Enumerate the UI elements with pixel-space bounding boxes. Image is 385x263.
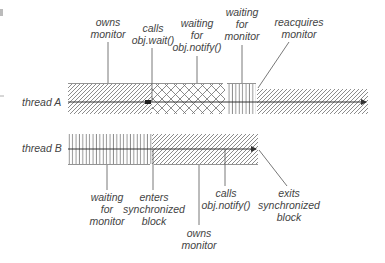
svg-text:synchronized: synchronized xyxy=(258,199,321,211)
svg-text:monitor: monitor xyxy=(89,215,125,227)
svg-text:obj.notify(): obj.notify() xyxy=(201,199,250,211)
annotation-waiting-monitor-b: waiting for monitor xyxy=(89,165,125,227)
svg-text:monitor: monitor xyxy=(90,28,126,40)
segment-owns-monitor xyxy=(68,84,152,114)
svg-text:exits: exits xyxy=(278,187,300,199)
svg-text:for: for xyxy=(236,18,249,30)
svg-text:waiting: waiting xyxy=(181,17,214,29)
svg-text:owns: owns xyxy=(96,16,121,28)
annotation-reacquires: reacquires monitor xyxy=(258,16,324,88)
segment-waiting-monitor xyxy=(227,84,256,114)
svg-text:calls: calls xyxy=(215,187,237,199)
svg-text:calls: calls xyxy=(142,22,164,34)
svg-text:obj.wait(): obj.wait() xyxy=(132,34,175,46)
svg-text:reacquires: reacquires xyxy=(274,16,324,28)
thread-b-label: thread B xyxy=(22,142,62,154)
thread-a-timeline: thread A xyxy=(22,84,368,115)
edge-artifact xyxy=(0,9,3,16)
svg-text:monitor: monitor xyxy=(281,28,317,40)
svg-text:enters: enters xyxy=(139,191,169,203)
svg-text:monitor: monitor xyxy=(224,30,260,42)
svg-text:waiting: waiting xyxy=(91,191,124,203)
wait-call-marker xyxy=(145,100,151,104)
svg-text:block: block xyxy=(277,211,302,223)
thread-a-label: thread A xyxy=(22,96,61,108)
svg-text:synchronized: synchronized xyxy=(123,203,186,215)
svg-text:waiting: waiting xyxy=(226,6,259,18)
annotation-exits-block: exits synchronized block xyxy=(258,150,321,223)
thread-b-timeline: thread B xyxy=(22,134,258,165)
svg-text:block: block xyxy=(142,215,167,227)
svg-text:for: for xyxy=(191,29,204,41)
annotation-owns-monitor: owns monitor xyxy=(90,16,126,83)
segment-waiting-notify xyxy=(152,84,225,114)
svg-text:monitor: monitor xyxy=(181,239,217,251)
svg-text:obj.notify(): obj.notify() xyxy=(172,41,221,53)
svg-text:for: for xyxy=(101,203,114,215)
annotation-waiting-notify: waiting for obj.notify() xyxy=(172,17,221,83)
annotation-waiting-monitor: waiting for monitor xyxy=(224,6,260,83)
svg-text:owns: owns xyxy=(187,227,212,239)
thread-monitor-diagram: thread A owns monitor calls obj.wait() w… xyxy=(0,0,385,263)
